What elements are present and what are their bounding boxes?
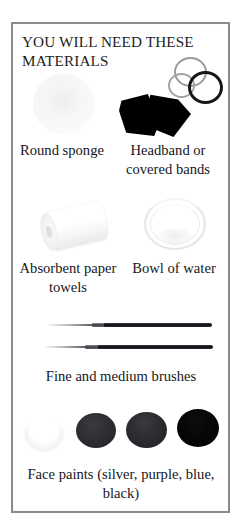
- bowl-shadow: [154, 228, 196, 248]
- caption-bowl-of-water: Bowl of water: [126, 259, 222, 278]
- fine-brush-photo: [48, 322, 212, 328]
- caption-headband: Headband or covered bands: [112, 141, 224, 178]
- medium-brush-photo: [45, 344, 213, 350]
- brush-handle: [98, 345, 213, 350]
- face-paint-pot-blue: [126, 412, 167, 448]
- caption-paper-towels: Absorbent paper towels: [14, 259, 122, 296]
- brush-bristles: [48, 324, 94, 327]
- brush-bristles: [45, 346, 87, 349]
- caption-round-sponge: Round sponge: [14, 141, 110, 160]
- round-sponge-photo: [33, 74, 95, 134]
- materials-page: YOU WILL NEED THESE MATERIALS Round spon…: [0, 0, 241, 528]
- caption-brushes: Fine and medium brushes: [22, 367, 220, 386]
- brush-handle: [104, 323, 212, 328]
- headband-photo: [119, 89, 191, 140]
- hair-band-ring-dark: [188, 71, 223, 104]
- face-paint-pot-black: [177, 409, 219, 447]
- bowl-of-water-photo: [144, 198, 206, 254]
- face-paint-pot-silver: [25, 417, 63, 449]
- face-paint-pot-purple: [76, 413, 116, 448]
- brush-ferrule: [85, 345, 99, 349]
- caption-face-paints: Face paints (silver, purple, blue, black…: [20, 465, 222, 502]
